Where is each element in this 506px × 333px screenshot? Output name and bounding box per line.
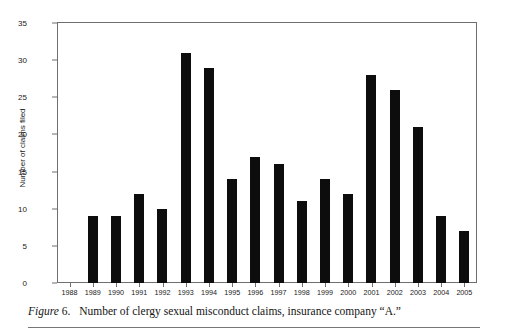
bar	[320, 179, 330, 283]
x-axis-tick-label: 1994	[197, 288, 220, 297]
bar-chart: 05101520253035 Number of claims filed 19…	[0, 0, 506, 296]
y-axis-tick-label: 35	[18, 19, 27, 28]
bar-slot	[453, 23, 476, 283]
y-axis-tick-label: 5	[23, 241, 27, 250]
x-axis-tick-mark	[116, 283, 117, 287]
plot-area	[58, 23, 476, 283]
x-axis-tick-mark	[441, 283, 442, 287]
figure-container: 05101520253035 Number of claims filed 19…	[0, 0, 506, 333]
y-axis-tick-label: 30	[18, 56, 27, 65]
bar	[250, 157, 260, 283]
bar-slot	[290, 23, 313, 283]
figure-caption-label: Figure	[28, 305, 59, 317]
x-axis-tick-label: 2000	[337, 288, 360, 297]
x-axis-tick-mark	[255, 283, 256, 287]
x-axis-tick-label: 1988	[58, 288, 81, 297]
x-axis-tick-mark	[163, 283, 164, 287]
x-axis-tick-label: 1997	[267, 288, 290, 297]
bar	[390, 90, 400, 283]
bar	[436, 216, 446, 283]
x-axis-tick-label: 1999	[313, 288, 336, 297]
bar	[413, 127, 423, 283]
x-axis-tick-label: 1991	[128, 288, 151, 297]
x-axis-tick-label: 1989	[81, 288, 104, 297]
y-axis-title: Number of claims filed	[18, 108, 27, 187]
y-axis: 05101520253035	[0, 0, 57, 296]
x-axis-tick-label: 1992	[151, 288, 174, 297]
x-axis-tick-label: 1995	[221, 288, 244, 297]
x-axis-tick-mark	[464, 283, 465, 287]
x-axis-tick-mark	[395, 283, 396, 287]
bar-slot	[267, 23, 290, 283]
bar-slot	[81, 23, 104, 283]
bar-slot	[151, 23, 174, 283]
x-axis: 1988198919901991199219931994199519961997…	[58, 285, 476, 299]
bar-slot	[221, 23, 244, 283]
bar-slot	[174, 23, 197, 283]
x-axis-tick-mark	[70, 283, 71, 287]
bar	[204, 68, 214, 283]
x-axis-tick-label: 1990	[104, 288, 127, 297]
x-axis-tick-label: 2004	[430, 288, 453, 297]
bar	[227, 179, 237, 283]
x-axis-tick-mark	[93, 283, 94, 287]
bar-slot	[128, 23, 151, 283]
bar	[181, 53, 191, 283]
figure-caption-text: Number of clergy sexual misconduct claim…	[79, 305, 401, 317]
x-axis-tick-label: 2002	[383, 288, 406, 297]
bar-slot	[244, 23, 267, 283]
bar	[111, 216, 121, 283]
bar-slot	[406, 23, 429, 283]
x-axis-tick-label: 1996	[244, 288, 267, 297]
y-axis-tick-label: 10	[18, 204, 27, 213]
x-axis-tick-label: 1998	[290, 288, 313, 297]
bar-slot	[197, 23, 220, 283]
x-axis-tick-mark	[325, 283, 326, 287]
bar	[343, 194, 353, 283]
figure-caption: Figure 6. Number of clergy sexual miscon…	[28, 305, 488, 317]
bar-slot	[430, 23, 453, 283]
bar-slot	[360, 23, 383, 283]
bar-slot	[337, 23, 360, 283]
x-axis-tick-label: 1993	[174, 288, 197, 297]
x-axis-tick-mark	[418, 283, 419, 287]
bar	[88, 216, 98, 283]
caption-divider	[28, 327, 480, 328]
bar-slot	[104, 23, 127, 283]
bar-slot	[383, 23, 406, 283]
x-axis-tick-mark	[279, 283, 280, 287]
figure-caption-number: 6.	[62, 305, 71, 317]
x-axis-tick-label: 2003	[406, 288, 429, 297]
bar	[366, 75, 376, 283]
x-axis-tick-mark	[209, 283, 210, 287]
x-axis-tick-mark	[348, 283, 349, 287]
bar	[459, 231, 469, 283]
bar	[134, 194, 144, 283]
x-axis-tick-label: 2005	[453, 288, 476, 297]
bar	[297, 201, 307, 283]
x-axis-tick-mark	[302, 283, 303, 287]
y-axis-tick-label: 25	[18, 93, 27, 102]
x-axis-tick-mark	[372, 283, 373, 287]
bar-slot	[58, 23, 81, 283]
x-axis-tick-mark	[232, 283, 233, 287]
x-axis-tick-mark	[139, 283, 140, 287]
y-axis-tick-label: 0	[23, 279, 27, 288]
x-axis-tick-label: 2001	[360, 288, 383, 297]
x-axis-tick-mark	[186, 283, 187, 287]
bar	[157, 209, 167, 283]
bar	[274, 164, 284, 283]
bar-slot	[313, 23, 336, 283]
